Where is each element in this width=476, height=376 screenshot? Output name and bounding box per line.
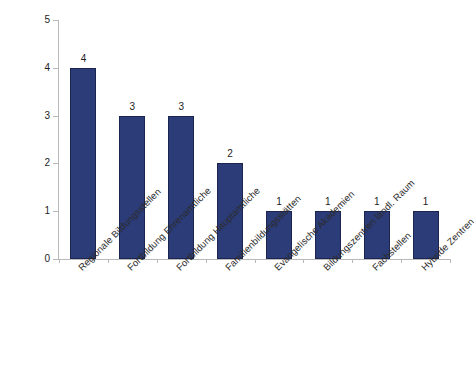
y-tick-label-wrap: 2 — [0, 158, 50, 168]
bar — [70, 68, 96, 259]
bar-value-label: 2 — [210, 148, 250, 159]
y-tick-label: 5 — [34, 15, 50, 25]
y-tick-label-wrap: 3 — [0, 111, 50, 121]
y-tick-label: 4 — [34, 63, 50, 73]
y-tick-label-wrap: 5 — [0, 15, 50, 25]
y-tick-label: 1 — [34, 206, 50, 216]
bar-value-label: 4 — [63, 53, 103, 64]
y-tick-label: 2 — [34, 158, 50, 168]
bar-value-label: 3 — [112, 101, 152, 112]
bar-value-label: 1 — [406, 196, 446, 207]
bar — [119, 116, 145, 259]
bar — [168, 116, 194, 259]
y-tick-label: 3 — [34, 111, 50, 121]
bar-value-label: 3 — [161, 101, 201, 112]
y-tick-label-wrap: 4 — [0, 63, 50, 73]
y-tick-label-wrap: 1 — [0, 206, 50, 216]
x-axis-labels: Regionale BildungsstellenFortbildung Ehr… — [0, 259, 457, 376]
